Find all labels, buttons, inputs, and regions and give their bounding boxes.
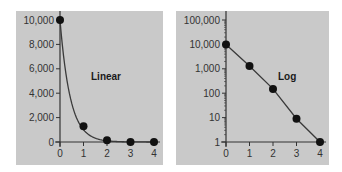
x-tick-label: 1 (247, 148, 253, 159)
log-label: Log (278, 71, 296, 82)
y-tick-label: 10,000 (23, 15, 54, 26)
data-point (246, 62, 254, 70)
y-tick-label: 100 (203, 88, 220, 99)
x-tick-label: 4 (317, 148, 323, 159)
y-tick-label: 2,000 (29, 112, 54, 123)
y-tick-label: 0 (48, 137, 54, 148)
x-tick-label: 0 (57, 148, 63, 159)
x-tick-label: 4 (151, 148, 157, 159)
data-point (103, 136, 111, 144)
linear-chart: 02,0004,0006,0008,00010,00001234Linear (23, 11, 160, 159)
y-tick-label: 100,000 (184, 15, 221, 26)
data-point (222, 40, 230, 48)
y-tick-label: 1 (214, 137, 220, 148)
data-point (269, 85, 277, 93)
y-tick-label: 10,000 (189, 39, 220, 50)
data-point (80, 122, 88, 130)
data-point (316, 138, 324, 146)
x-tick-label: 2 (104, 148, 110, 159)
x-tick-label: 1 (81, 148, 87, 159)
data-point (293, 115, 301, 123)
y-tick-label: 4,000 (29, 88, 54, 99)
y-tick-label: 10 (209, 112, 221, 123)
data-point (127, 138, 135, 146)
x-tick-label: 3 (128, 148, 134, 159)
chart-canvas: 02,0004,0006,0008,00010,00001234Linear11… (0, 0, 342, 172)
data-point (56, 16, 64, 24)
y-tick-label: 8,000 (29, 39, 54, 50)
x-tick-label: 2 (270, 148, 276, 159)
log-chart: 1101001,00010,000100,00001234Log (184, 11, 326, 159)
y-tick-label: 6,000 (29, 63, 54, 74)
x-tick-label: 0 (223, 148, 229, 159)
series-line (226, 44, 320, 142)
y-tick-label: 1,000 (195, 63, 220, 74)
data-point (150, 138, 158, 146)
x-tick-label: 3 (294, 148, 300, 159)
linear-label: Linear (91, 71, 121, 82)
